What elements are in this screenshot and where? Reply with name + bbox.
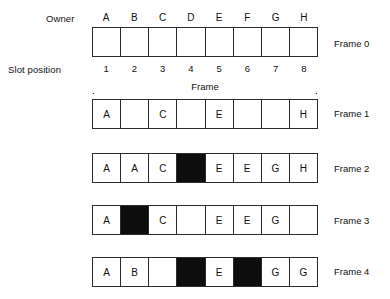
owner-header-cell: H bbox=[290, 11, 318, 25]
frame-row-3: A C E E G bbox=[92, 205, 318, 235]
frame-row-4: A B E G G bbox=[92, 257, 318, 287]
slot-cell: A bbox=[121, 154, 149, 182]
slot-cell: E bbox=[234, 206, 262, 234]
slot-cell: A bbox=[93, 154, 121, 182]
owner-header-cell: C bbox=[149, 11, 177, 25]
slot-number: 4 bbox=[177, 62, 205, 75]
slot-cell bbox=[234, 258, 262, 286]
slot-cell: G bbox=[290, 258, 317, 286]
slot-cell: A bbox=[93, 100, 121, 128]
slot-number: 5 bbox=[205, 62, 233, 75]
slot-position-axis-label: Slot position bbox=[8, 64, 61, 75]
slot-cell: E bbox=[206, 100, 234, 128]
slot-cell bbox=[177, 154, 205, 182]
slot-number: 1 bbox=[92, 62, 120, 75]
slot-cell bbox=[177, 100, 205, 128]
slot-cell: E bbox=[206, 206, 234, 234]
slot-cell: C bbox=[149, 154, 177, 182]
frame-caption-4: Frame 4 bbox=[334, 266, 369, 277]
slot-number-row: 1 2 3 4 5 6 7 8 bbox=[92, 62, 318, 75]
owner-header-row: A B C D E F G H bbox=[92, 11, 318, 25]
frame-caption-2: Frame 2 bbox=[334, 163, 369, 174]
slot-cell: A bbox=[93, 206, 121, 234]
frame-span-label: Frame bbox=[186, 81, 223, 92]
slot-cell bbox=[93, 28, 121, 56]
slot-cell bbox=[149, 258, 177, 286]
frame-row-1: A C E H bbox=[92, 99, 318, 129]
frame-caption-1: Frame 1 bbox=[334, 108, 369, 119]
slot-cell: E bbox=[206, 154, 234, 182]
slot-number: 8 bbox=[290, 62, 318, 75]
slot-number: 7 bbox=[262, 62, 290, 75]
slot-cell bbox=[121, 100, 149, 128]
owner-header-cell: D bbox=[177, 11, 205, 25]
slot-cell: G bbox=[262, 154, 290, 182]
slot-number: 6 bbox=[233, 62, 261, 75]
slot-cell: C bbox=[149, 100, 177, 128]
frame-row-0 bbox=[92, 27, 318, 57]
slot-cell: E bbox=[234, 154, 262, 182]
owner-header-cell: B bbox=[120, 11, 148, 25]
slot-cell bbox=[177, 206, 205, 234]
owner-header-cell: A bbox=[92, 11, 120, 25]
owner-header-cell: G bbox=[262, 11, 290, 25]
slot-cell bbox=[262, 100, 290, 128]
owner-header-cell: E bbox=[205, 11, 233, 25]
slot-cell bbox=[121, 206, 149, 234]
frame-caption-0: Frame 0 bbox=[334, 38, 369, 49]
slot-cell: G bbox=[262, 206, 290, 234]
slot-cell bbox=[290, 206, 317, 234]
frame-caption-3: Frame 3 bbox=[334, 215, 369, 226]
frame-span-label-wrap: Frame bbox=[92, 79, 318, 93]
slot-cell: E bbox=[206, 258, 234, 286]
slot-cell bbox=[177, 258, 205, 286]
slot-cell bbox=[149, 28, 177, 56]
slot-cell bbox=[290, 28, 317, 56]
slot-cell bbox=[177, 28, 205, 56]
frame-span-measure: Frame bbox=[92, 79, 318, 95]
slot-cell bbox=[121, 28, 149, 56]
slot-cell: B bbox=[121, 258, 149, 286]
slot-cell bbox=[206, 28, 234, 56]
owner-axis-label: Owner bbox=[46, 13, 74, 24]
owner-header-cell: F bbox=[233, 11, 261, 25]
slot-cell: G bbox=[262, 258, 290, 286]
frame-row-2: A A C E E G H bbox=[92, 153, 318, 183]
slot-cell bbox=[234, 28, 262, 56]
slot-cell: A bbox=[93, 258, 121, 286]
slot-cell bbox=[234, 100, 262, 128]
slot-cell: C bbox=[149, 206, 177, 234]
slot-cell: H bbox=[290, 100, 317, 128]
slot-number: 2 bbox=[120, 62, 148, 75]
slot-cell bbox=[262, 28, 290, 56]
slot-number: 3 bbox=[149, 62, 177, 75]
slot-cell: H bbox=[290, 154, 317, 182]
